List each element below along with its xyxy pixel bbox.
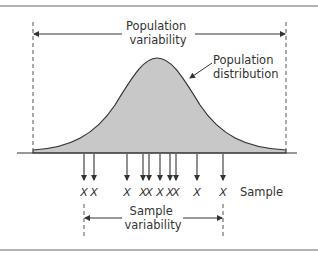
sample-label: Sample bbox=[240, 185, 283, 199]
svg-text:X: X bbox=[79, 186, 88, 199]
svg-text:X: X bbox=[171, 186, 180, 199]
sample-arrows bbox=[84, 154, 223, 180]
svg-text:X: X bbox=[218, 186, 227, 199]
population-distribution-label: Population distribution bbox=[213, 53, 279, 81]
svg-text:X: X bbox=[144, 186, 153, 199]
svg-text:X: X bbox=[192, 186, 201, 199]
svg-text:X: X bbox=[155, 186, 164, 199]
sample-markers: X X X X X X X X X X bbox=[79, 186, 227, 199]
population-variability-label: Population variability bbox=[126, 19, 190, 47]
svg-text:X: X bbox=[89, 186, 98, 199]
sample-variability-label: Sample variability bbox=[124, 204, 181, 232]
sampling-diagram: Population variability Population distri… bbox=[0, 0, 318, 254]
population-distribution-pointer bbox=[190, 63, 212, 78]
svg-text:X: X bbox=[122, 186, 131, 199]
